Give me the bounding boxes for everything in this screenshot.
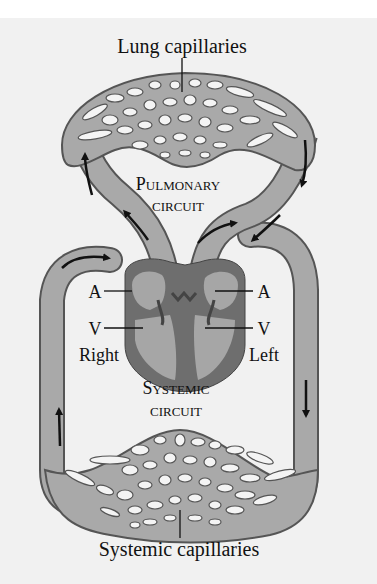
left-side-label: Left — [249, 345, 279, 365]
pulmonary-circuit-label-line2: CIRCUIT — [152, 199, 204, 214]
left-atrium-label: A — [258, 282, 271, 302]
right-atrium-label: A — [89, 282, 102, 302]
systemic-capillaries-label: Systemic capillaries — [99, 538, 260, 561]
right-side-label: Right — [79, 345, 119, 365]
circulation-diagram: Lung capillaries PULMONARY CIRCUIT A V A… — [0, 0, 377, 584]
lung-capillary-bed — [62, 73, 315, 170]
systemic-capillary-bed — [45, 430, 318, 543]
left-ventricle-label: V — [258, 319, 271, 339]
systemic-circuit-label-line2: CIRCUIT — [150, 404, 202, 419]
lung-capillaries-label: Lung capillaries — [117, 35, 247, 58]
pulmonary-circuit-label-line1: PULMONARY — [136, 174, 221, 194]
right-ventricle-label: V — [89, 319, 102, 339]
heart — [125, 259, 245, 392]
arrow-systemic-return-up — [59, 410, 60, 446]
